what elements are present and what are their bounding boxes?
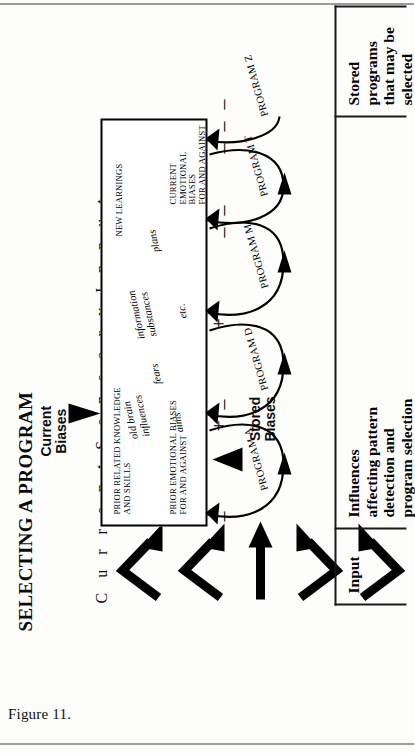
sign-below-program-a: – — [212, 511, 232, 521]
sign-a-plus: + — [208, 420, 228, 431]
program-label-z: PROGRAM Z — [241, 53, 269, 117]
zone-rule-4 — [334, 115, 406, 117]
current-biases-label: Current Biases — [38, 405, 67, 456]
figure-title: SELECTING A PROGRAM — [14, 391, 36, 631]
sign-a-minus: – — [212, 399, 232, 409]
box-text-fears: fears — [148, 362, 163, 385]
processing-box: PRIOR RELATED KNOWLEDGE AND SKILLS PRIOR… — [100, 118, 207, 526]
box-text-current-emotional-biases: CURRENT EMOTIONAL BIASES FOR AND AGAINST — [168, 120, 207, 204]
sign-m-minus-1: – — [212, 227, 232, 237]
zone-rule-2 — [334, 603, 406, 605]
zone-rule-3 — [334, 527, 406, 529]
box-text-plans: plans — [146, 228, 162, 253]
zone-label-stored-programs: Stored programs that may be selected — [344, 0, 415, 105]
box-text-new-learnings: NEW LEARNINGS — [114, 163, 124, 236]
box-text-etc: etc. — [175, 302, 189, 318]
sign-t-minus-2: – — [212, 121, 232, 131]
box-text-information-substances: information substances — [125, 287, 158, 340]
zone-label-influences: Influences affecting pattern detection a… — [344, 398, 415, 517]
sign-d-plus: + — [208, 318, 228, 329]
sign-m-minus-2: – — [212, 205, 232, 215]
sign-t-minus-1: – — [212, 143, 232, 153]
sign-t-minus-3: – — [212, 99, 232, 109]
zone-rule-1 — [334, 5, 336, 605]
input-arrows — [110, 513, 410, 603]
zone-label-input: Input — [344, 556, 362, 593]
